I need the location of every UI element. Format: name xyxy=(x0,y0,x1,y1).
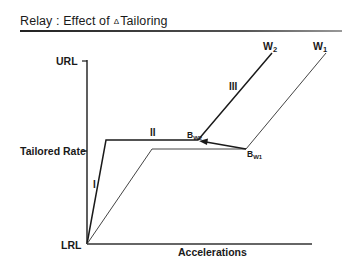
svg-text:BW1: BW1 xyxy=(247,149,263,160)
segment-label-i: I xyxy=(93,179,96,190)
x-axis-label: Accelerations xyxy=(178,246,247,258)
tailored-rate-label: Tailored Rate xyxy=(20,145,86,157)
svg-text:W2: W2 xyxy=(263,40,277,54)
lrl-label: LRL xyxy=(61,239,82,251)
bw2-label: BW2 xyxy=(187,130,203,141)
w1-label: W1 xyxy=(313,40,327,54)
segment-label-ii: II xyxy=(150,127,156,138)
w2-label: W2 xyxy=(263,40,277,54)
shift-arrow xyxy=(206,142,246,149)
url-label: URL xyxy=(56,55,78,67)
svg-text:BW2: BW2 xyxy=(187,130,203,141)
relay-diagram: URL Tailored Rate LRL Accelerations I II… xyxy=(0,0,342,277)
svg-text:W1: W1 xyxy=(313,40,327,54)
bw1-label: BW1 xyxy=(247,149,263,160)
w1-curve xyxy=(87,53,326,244)
segment-label-iii: III xyxy=(229,81,238,92)
